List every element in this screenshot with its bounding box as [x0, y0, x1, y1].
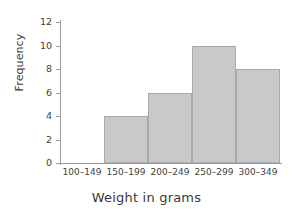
y-tick-label: 2 [28, 134, 52, 145]
x-axis-title: Weight in grams [0, 190, 293, 205]
x-tick-label: 100–149 [60, 167, 104, 177]
y-tick-label: 0 [28, 157, 52, 168]
bar-series [60, 22, 280, 163]
x-axis-tick-labels: 100–149150–199200–249250–299300–349 [60, 167, 280, 181]
histogram-bar [192, 46, 236, 164]
y-tick-label: 4 [28, 110, 52, 121]
y-axis-title: Frequency [13, 8, 26, 118]
x-axis-line [60, 163, 282, 164]
y-tick-label: 8 [28, 63, 52, 74]
x-tick-label: 200–249 [148, 167, 192, 177]
x-tick-label: 150–199 [104, 167, 148, 177]
y-tick-label: 6 [28, 87, 52, 98]
y-tick-label: 12 [28, 16, 52, 27]
x-tick-label: 300–349 [236, 167, 280, 177]
y-tick-mark [56, 163, 61, 164]
histogram-chart: Frequency 024681012 100–149150–199200–24… [0, 0, 293, 217]
histogram-bar [236, 69, 280, 163]
histogram-bar [104, 116, 148, 163]
histogram-bar [148, 93, 192, 164]
x-tick-label: 250–299 [192, 167, 236, 177]
y-tick-label: 10 [28, 40, 52, 51]
